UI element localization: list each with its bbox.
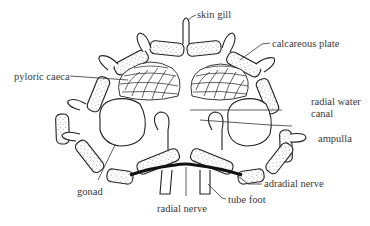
label-adradial-nerve: adradial nerve bbox=[264, 178, 324, 189]
label-gonad: gonad bbox=[77, 186, 103, 197]
pyloric-caeca bbox=[119, 62, 249, 100]
label-radial-water-canal-1: radial water bbox=[311, 96, 361, 107]
label-calcareous-plate: calcareous plate bbox=[272, 38, 340, 49]
label-radial-nerve: radial nerve bbox=[157, 203, 207, 214]
label-radial-water-canal-2: canal bbox=[311, 108, 333, 119]
gonads bbox=[100, 99, 272, 146]
label-skin-gill: skin gill bbox=[197, 9, 231, 20]
starfish-arm-cross-section-diagram: skin gill calcareous plate pyloric caeca… bbox=[0, 0, 370, 226]
label-ampulla: ampulla bbox=[318, 133, 352, 144]
label-tube-foot: tube foot bbox=[228, 194, 266, 205]
label-pyloric-caeca: pyloric caeca bbox=[14, 71, 70, 82]
